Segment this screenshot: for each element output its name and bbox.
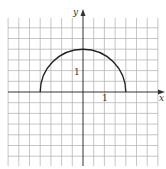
y-axis-label: y xyxy=(72,7,79,17)
axes: x y 1 1 xyxy=(8,7,165,166)
x-axis-label: x xyxy=(159,93,164,103)
semicircle-graph: x y 1 1 xyxy=(0,0,166,169)
x-tick-label: 1 xyxy=(102,93,108,103)
y-axis-arrow-icon xyxy=(81,9,86,16)
y-tick-label: 1 xyxy=(74,67,80,77)
